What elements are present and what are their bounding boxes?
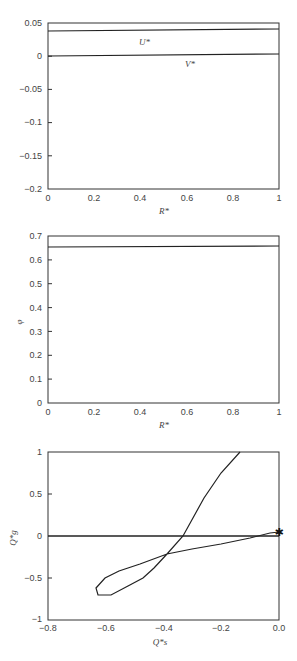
x-axis-label: Q*s	[153, 637, 168, 647]
x-tick: 0.6	[181, 193, 194, 203]
x-tick: 0.6	[181, 407, 194, 417]
y-tick: −0.1	[24, 117, 42, 127]
y-tick: 0.05	[24, 18, 42, 28]
y-tick: 0.2	[29, 350, 42, 360]
x-tick: 0.4	[134, 193, 147, 203]
y-axis-ticks: 0.7 0.6 0.5 0.4 0.3 0.2 0.1 0	[29, 231, 52, 408]
x-axis-ticks: 0 0.2 0.4 0.6 0.8 1	[45, 407, 281, 417]
y-tick: −0.15	[19, 151, 42, 161]
y-tick: 0.5	[29, 489, 42, 499]
v-star-label: V*	[185, 59, 195, 69]
y-tick: 0.5	[29, 279, 42, 289]
u-star-line	[48, 29, 279, 31]
x-axis-ticks: 0 0.2 0.4 0.6 0.8 1	[45, 193, 281, 203]
y-axis-ticks: 0.05 0 −0.05 −0.1 −0.15 −0.2	[19, 18, 52, 194]
x-tick: 0.4	[134, 407, 147, 417]
x-tick: 0	[45, 407, 50, 417]
y-tick: 0.3	[29, 327, 42, 337]
trajectory-curve	[96, 452, 279, 595]
y-tick: 0	[37, 398, 42, 408]
x-tick: 0.8	[227, 193, 240, 203]
x-tick: 0.0	[273, 623, 286, 633]
y-tick: 0	[37, 51, 42, 61]
y-tick: 0	[37, 531, 42, 541]
plot-frame	[48, 236, 279, 403]
y-axis-label: φ	[14, 319, 24, 324]
x-tick: −0.4	[155, 623, 173, 633]
chart-q-phase: 1 0.5 0 −0.5 −1 −0.8 −0.6 −0.4 −0.2 0.0 …	[8, 447, 285, 647]
x-tick: 0.8	[227, 407, 240, 417]
x-tick: 1	[276, 407, 281, 417]
y-tick: 0.4	[29, 303, 42, 313]
x-tick: −0.2	[212, 623, 230, 633]
y-tick: 0.1	[29, 374, 42, 384]
chart-velocity: 0.05 0 −0.05 −0.1 −0.15 −0.2 0 0.2 0.4 0…	[19, 18, 281, 216]
u-star-label: U*	[139, 37, 150, 47]
x-tick: −0.8	[39, 623, 57, 633]
y-axis-label: Q*g	[8, 530, 18, 546]
y-tick: 0.6	[29, 255, 42, 265]
x-tick: 0.2	[88, 193, 101, 203]
x-axis-label: R*	[158, 420, 169, 430]
phi-line	[48, 246, 279, 247]
x-tick: 1	[276, 193, 281, 203]
figure: 0.05 0 −0.05 −0.1 −0.15 −0.2 0 0.2 0.4 0…	[0, 0, 297, 661]
plot-frame	[48, 23, 279, 189]
v-star-line	[48, 54, 279, 56]
y-tick: 1	[37, 447, 42, 457]
y-tick: 0.7	[29, 231, 42, 241]
chart-phi: 0.7 0.6 0.5 0.4 0.3 0.2 0.1 0 0 0.2 0.4 …	[14, 231, 282, 430]
x-tick: −0.6	[97, 623, 115, 633]
y-tick: −0.2	[24, 184, 42, 194]
y-tick: −0.05	[19, 84, 42, 94]
x-axis-label: R*	[158, 206, 169, 216]
star-marker-icon: ✱	[274, 526, 283, 539]
y-tick: −0.5	[24, 573, 42, 583]
x-axis-ticks: −0.8 −0.6 −0.4 −0.2 0.0	[39, 623, 285, 633]
x-tick: 0.2	[88, 407, 101, 417]
x-tick: 0	[45, 193, 50, 203]
